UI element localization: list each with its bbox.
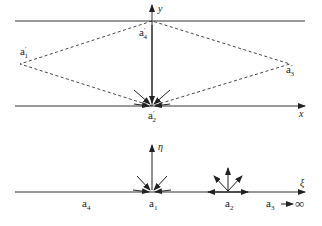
label-a1-prime: a′1: [20, 45, 28, 60]
label-a4-prime: a′4: [139, 26, 147, 41]
eta-axis-label: η: [158, 141, 163, 152]
infinity-symbol: ∞: [295, 196, 304, 211]
diverging-arrows-icon: [208, 168, 248, 192]
label-a2-prime: a′2: [148, 109, 156, 124]
upper-plane: x y a′1 a′4 a′3 a′2: [15, 3, 305, 124]
dashed-rhombus: [20, 21, 290, 106]
label-a3-prime: a′3: [286, 63, 294, 78]
conformal-mapping-diagram: x y a′1 a′4 a′3 a′2 ξ η: [0, 0, 322, 226]
y-axis-label: y: [157, 3, 163, 14]
label-a1: a1: [149, 197, 158, 212]
label-a3: a3: [266, 197, 275, 212]
lower-plane: ξ η a4 a1 a2 a3: [15, 141, 305, 212]
label-a4: a4: [82, 197, 91, 212]
xi-axis-label: ξ: [300, 177, 305, 189]
x-axis-label: x: [298, 108, 304, 119]
label-a2: a2: [225, 197, 234, 212]
